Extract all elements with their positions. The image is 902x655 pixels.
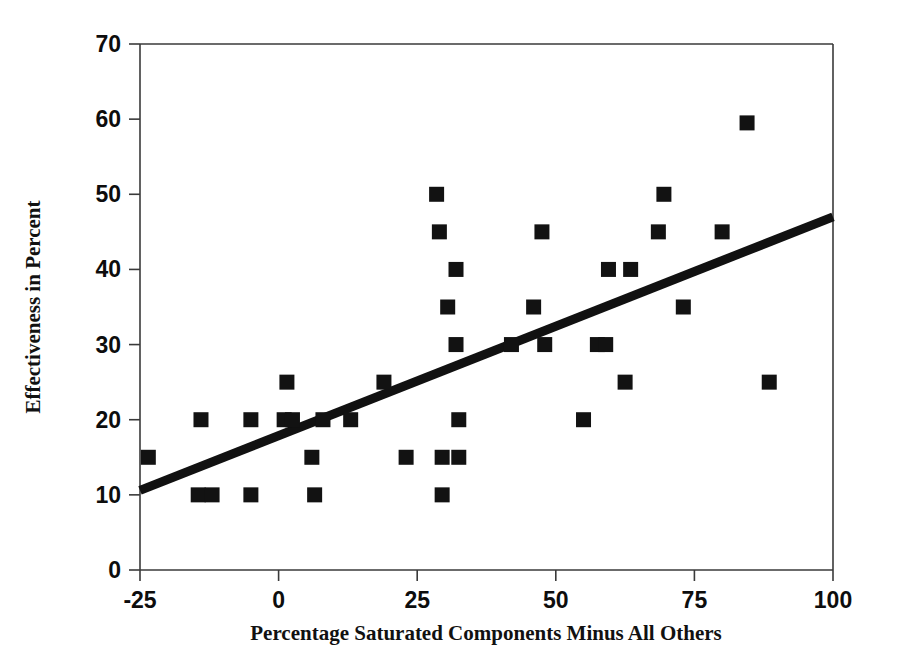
data-point-marker	[315, 412, 330, 427]
data-point-marker	[193, 412, 208, 427]
data-point-marker	[451, 412, 466, 427]
data-point-marker	[451, 450, 466, 465]
y-tick-label: 70	[95, 31, 121, 57]
data-point-marker	[715, 224, 730, 239]
y-tick-label: 10	[95, 482, 121, 508]
data-point-marker	[623, 262, 638, 277]
y-tick-label: 30	[95, 332, 121, 358]
data-point-marker	[598, 337, 613, 352]
plot-canvas: 010203040506070 -250255075100 Percentage…	[0, 0, 902, 655]
data-point-marker	[740, 115, 755, 130]
data-point-marker	[205, 487, 220, 502]
data-point-marker	[141, 450, 156, 465]
y-tick-label: 40	[95, 256, 121, 282]
data-point-marker	[279, 375, 294, 390]
trendline-segment	[140, 217, 833, 491]
y-tick-label: 60	[95, 106, 121, 132]
y-axis-ticks	[129, 44, 140, 570]
data-point-marker	[343, 412, 358, 427]
trendline	[140, 217, 833, 491]
y-axis-tick-labels: 010203040506070	[95, 31, 121, 583]
data-point-marker	[435, 487, 450, 502]
scatter-plot-figure: 010203040506070 -250255075100 Percentage…	[0, 0, 902, 655]
data-point-marker	[526, 300, 541, 315]
data-point-marker	[676, 300, 691, 315]
data-point-marker	[576, 412, 591, 427]
y-tick-label: 20	[95, 407, 121, 433]
data-point-marker	[243, 487, 258, 502]
data-point-marker	[618, 375, 633, 390]
y-tick-label: 0	[108, 557, 121, 583]
x-tick-label: 75	[682, 587, 708, 613]
data-point-marker	[440, 300, 455, 315]
data-point-marker	[656, 187, 671, 202]
data-point-marker	[762, 375, 777, 390]
data-point-marker	[243, 412, 258, 427]
data-point-marker	[534, 224, 549, 239]
data-point-marker	[601, 262, 616, 277]
data-point-marker	[651, 224, 666, 239]
data-point-marker	[537, 337, 552, 352]
y-axis-title: Effectiveness in Percent	[21, 200, 45, 413]
data-point-marker	[429, 187, 444, 202]
y-tick-label: 50	[95, 181, 121, 207]
data-point-marker	[435, 450, 450, 465]
data-point-marker	[376, 375, 391, 390]
x-tick-label: 100	[814, 587, 852, 613]
x-tick-label: 50	[543, 587, 569, 613]
x-axis-title: Percentage Saturated Components Minus Al…	[250, 621, 722, 645]
data-point-marker	[432, 224, 447, 239]
x-tick-label: -25	[123, 587, 156, 613]
data-point-marker	[399, 450, 414, 465]
x-axis-tick-labels: -250255075100	[123, 587, 852, 613]
x-axis-ticks	[140, 570, 833, 581]
x-tick-label: 25	[404, 587, 430, 613]
data-point-marker	[449, 337, 464, 352]
data-point-marker	[504, 337, 519, 352]
data-point-marker	[449, 262, 464, 277]
data-point-marker	[191, 487, 206, 502]
data-point-marker	[304, 450, 319, 465]
data-point-markers	[141, 115, 777, 502]
data-point-marker	[307, 487, 322, 502]
data-point-marker	[285, 412, 300, 427]
x-tick-label: 0	[272, 587, 285, 613]
